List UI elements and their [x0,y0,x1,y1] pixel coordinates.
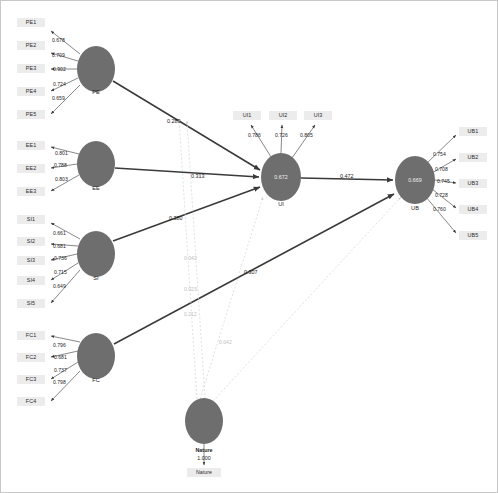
loading-ui1: 0.786 [248,132,261,138]
moderator-loading: 1.000 [187,455,221,461]
loading-ub3: 0.745 [437,178,450,184]
indicator-nature: Nature [187,468,221,477]
construct-label-fc: FC [86,377,106,383]
indicator-ub2: UB2 [459,153,487,162]
moderation-nature-ui-b [200,197,263,399]
coefficient-ui-ub: 0.472 [340,173,354,179]
coefficient-moderation-4: 0.042 [219,339,232,345]
indicator-pe5: PE5 [17,110,45,119]
coefficient-moderation-3: 0.212 [184,311,197,317]
indicator-fc4: FC4 [17,397,45,406]
r-squared-ui: 0.672 [266,174,296,180]
construct-node-si [77,231,115,277]
loading-si4: 0.715 [54,269,67,275]
indicator-ub5: UB5 [459,231,487,240]
path-pe-ui [113,81,260,170]
coefficient-moderation-1: 0.042 [184,255,197,261]
loading-fc1: 0.796 [53,342,66,348]
indicator-pe2: PE2 [17,41,45,50]
indicator-ee1: EE1 [17,141,45,150]
coefficient-fc-ub: 0.307 [244,269,258,275]
measurement-edges-pe [51,31,80,114]
indicator-pe4: PE4 [17,87,45,96]
construct-node-fc [77,333,115,379]
loading-si3: 0.736 [54,255,67,261]
diagram-canvas: PE1 PE2 PE3 PE4 PE5 EE1 EE2 EE3 SI1 SI2 … [0,0,498,493]
indicator-ui2: UI2 [269,111,297,120]
indicator-fc3: FC3 [17,375,45,384]
construct-label-pe: PE [86,89,106,95]
construct-label-ui: UI [271,201,291,207]
construct-node-ee [77,141,115,187]
indicator-ub4: UB4 [459,205,487,214]
moderation-nature-ub [213,197,401,401]
coefficient-ee-ui: 0.313 [191,173,205,179]
loading-fc2: 0.681 [54,354,67,360]
loading-pe3: 0.902 [53,66,66,72]
loading-fc3: 0.737 [54,367,67,373]
indicator-ui1: UI1 [233,111,261,120]
loading-si1: 0.661 [53,230,66,236]
indicator-ub3: UB3 [459,179,487,188]
indicator-ee3: EE3 [17,187,45,196]
path-diagram-svg [1,1,498,493]
loading-ub5: 0.760 [433,206,446,212]
indicator-si3: SI3 [17,256,45,265]
moderator-label: Nature [187,447,221,453]
loading-ub1: 0.754 [433,151,446,157]
loading-ub2: 0.708 [435,166,448,172]
loading-ub4: 0.728 [435,192,448,198]
loading-pe2: 0.709 [52,52,65,58]
loading-ee3: 0.803 [55,176,68,182]
indicator-ee2: EE2 [17,164,45,173]
r-squared-ub: 0.669 [400,177,430,183]
construct-node-pe [77,46,115,92]
indicator-si4: SI4 [17,276,45,285]
indicator-ub1: UB1 [459,127,487,136]
path-ee-ui [115,168,259,177]
loading-ee2: 0.788 [54,162,67,168]
indicator-pe1: PE1 [17,18,45,27]
loading-ee1: 0.801 [55,150,68,156]
indicator-fc1: FC1 [17,331,45,340]
coefficient-si-ui: 0.380 [169,215,183,221]
indicator-si5: SI5 [17,299,45,308]
loading-si2: 0.681 [53,243,66,249]
indicator-si1: SI1 [17,215,45,224]
structural-edges [113,81,394,344]
loading-ui3: 0.805 [300,132,313,138]
indicator-ui3: UI3 [304,111,332,120]
loading-pe5: 0.659 [52,95,65,101]
loading-pe1: 0.678 [52,37,65,43]
construct-label-ub: UB [405,205,425,211]
path-si-ui [113,187,260,241]
coefficient-pe-ui: 0.289 [167,118,181,124]
coefficient-moderation-2: 0.023 [184,286,197,292]
loading-pe4: 0.724 [53,81,66,87]
construct-nodes [77,46,435,444]
construct-label-ee: EE [86,185,106,191]
loading-ui2: 0.726 [275,132,288,138]
indicator-fc2: FC2 [17,353,45,362]
measurement-edges-ui [251,125,315,158]
loading-fc4: 0.798 [53,379,66,385]
loading-si5: 0.649 [53,283,66,289]
indicator-si2: SI2 [17,237,45,246]
indicator-pe3: PE3 [17,64,45,73]
construct-node-nature [185,398,223,444]
construct-label-si: SI [86,275,106,281]
